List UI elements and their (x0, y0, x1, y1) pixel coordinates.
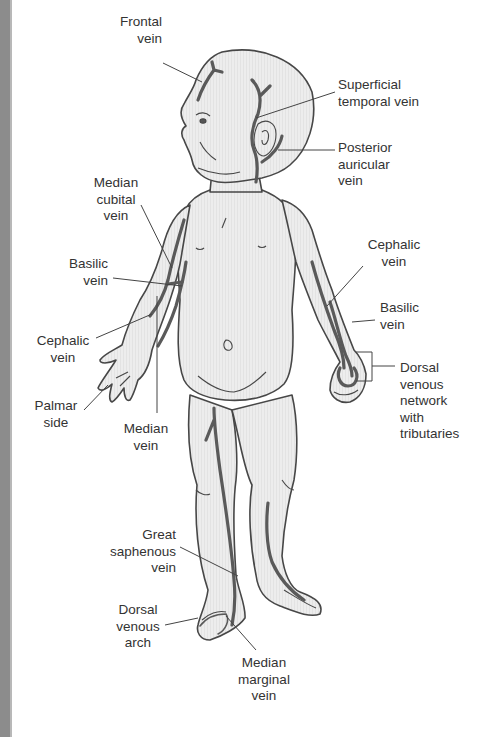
label-dorsal-venous-arch: Dorsal venous arch (108, 602, 168, 652)
label-median-vein: Median vein (118, 421, 174, 454)
torso (178, 190, 296, 400)
leader-dorsal-venous-arch (165, 618, 198, 625)
right-leg (232, 395, 321, 615)
label-palmar-side: Palmar side (28, 398, 84, 431)
leader-palmar (84, 385, 108, 410)
label-great-saphenous-vein: Great saphenous vein (90, 527, 176, 577)
label-cephalic-vein-left: Cephalic vein (30, 333, 96, 366)
leader-basilic-right (352, 320, 375, 322)
leader-frontal (163, 63, 202, 82)
label-basilic-vein-left: Basilic vein (50, 256, 108, 289)
label-cephalic-vein-right: Cephalic vein (362, 237, 426, 270)
label-dorsal-venous-network: Dorsal venous network with tributaries (400, 360, 476, 443)
label-basilic-vein-right: Basilic vein (380, 300, 440, 333)
head (181, 50, 314, 183)
label-median-marginal-vein: Median marginal vein (232, 655, 296, 705)
label-posterior-auricular-vein: Posterior auricular vein (338, 140, 428, 190)
label-frontal-vein: Frontal vein (100, 14, 162, 47)
label-superficial-temporal-vein: Superficial temporal vein (338, 77, 468, 110)
label-median-cubital-vein: Median cubital vein (80, 175, 152, 225)
leader-cephalic-right (327, 266, 363, 306)
